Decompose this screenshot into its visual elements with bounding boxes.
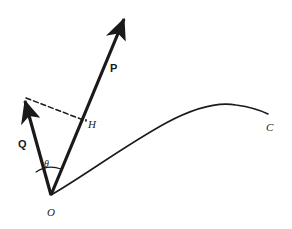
- point-o-label: O: [47, 206, 55, 218]
- point-h-label: H: [87, 118, 97, 130]
- vector-p-label: P: [110, 62, 117, 74]
- curve-c-label: C: [266, 121, 274, 133]
- vector-projection-diagram: P Q H O C θ: [0, 0, 292, 229]
- angle-theta-label: θ: [44, 158, 49, 169]
- figure-canvas: P Q H O C θ: [0, 0, 292, 229]
- figure-background: [0, 0, 292, 229]
- vector-q-label: Q: [18, 138, 27, 150]
- projection-foot-point: [85, 119, 87, 121]
